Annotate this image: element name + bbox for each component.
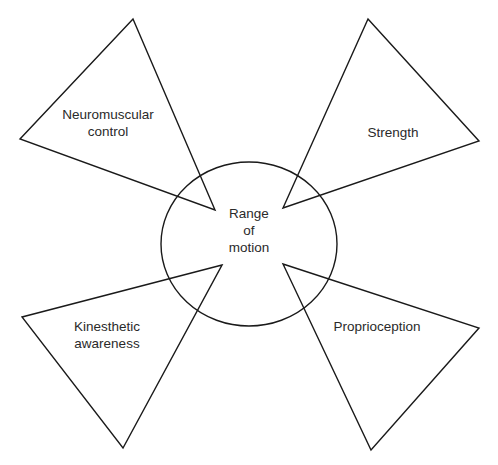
kinesthetic-awareness-label: Kinesthetic awareness [62, 318, 152, 352]
proprioception-triangle [283, 264, 479, 450]
strength-label-line1: Strength [353, 124, 433, 141]
neuromuscular-control-label: Neuromuscular control [48, 106, 168, 140]
center-label-line3: motion [219, 239, 279, 256]
kinesthetic-label-line1: Kinesthetic [62, 318, 152, 335]
kinesthetic-label-line2: awareness [62, 335, 152, 352]
center-label: Range of motion [219, 205, 279, 256]
center-label-line2: of [219, 222, 279, 239]
neuromuscular-label-line1: Neuromuscular [48, 106, 168, 123]
center-label-line1: Range [219, 205, 279, 222]
neuromuscular-label-line2: control [48, 123, 168, 140]
kinesthetic-awareness-triangle [22, 265, 222, 448]
proprioception-label: Proprioception [322, 318, 432, 335]
strength-triangle [283, 19, 479, 208]
strength-label: Strength [353, 124, 433, 141]
proprioception-label-line1: Proprioception [322, 318, 432, 335]
